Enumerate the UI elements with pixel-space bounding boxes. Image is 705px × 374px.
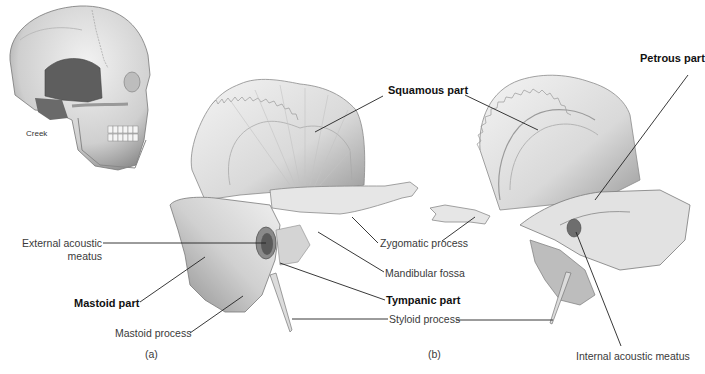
skull-credit: Creek [26, 128, 47, 140]
label-mandibular-fossa: Mandibular fossa [385, 267, 465, 279]
label-internal-acoustic-meatus: Internal acoustic meatus [576, 350, 690, 362]
temporal-bone-lateral-view [170, 79, 418, 332]
label-styloid-process: Styloid process [389, 313, 460, 325]
label-squamous-part: Squamous part [388, 84, 468, 96]
label-external-acoustic-meatus-line2: meatus [22, 250, 102, 262]
label-zygomatic-process: Zygomatic process [380, 237, 468, 249]
label-petrous-part: Petrous part [640, 52, 705, 64]
panel-a-caption: (a) [145, 348, 158, 360]
label-mastoid-process: Mastoid process [115, 327, 191, 339]
label-external-acoustic-meatus-line1: External acoustic [22, 237, 102, 249]
temporal-bone-medial-view [430, 75, 690, 324]
label-mastoid-part: Mastoid part [74, 297, 139, 309]
label-tympanic-part: Tympanic part [386, 294, 460, 306]
skull-illustration [10, 6, 150, 170]
panel-b-caption: (b) [428, 348, 441, 360]
